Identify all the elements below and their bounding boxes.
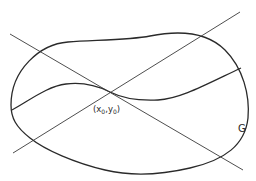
region-label: G: [238, 123, 246, 134]
diagram-canvas: (x0,y0) G: [0, 0, 256, 181]
line-ascending: [13, 12, 240, 153]
solution-curve: [12, 68, 241, 110]
line-descending: [10, 34, 243, 170]
point-label: (x0,y0): [93, 104, 120, 115]
